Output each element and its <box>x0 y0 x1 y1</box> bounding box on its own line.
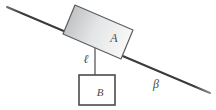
block-b-label: B <box>97 86 104 98</box>
angle-beta-label: β <box>152 77 159 91</box>
diagram-canvas: A B ℓ β <box>0 0 216 110</box>
length-label: ℓ <box>84 52 89 66</box>
block-a-label: A <box>109 31 118 45</box>
block-a-shape <box>63 5 133 59</box>
physics-diagram: A B ℓ β <box>0 0 216 110</box>
